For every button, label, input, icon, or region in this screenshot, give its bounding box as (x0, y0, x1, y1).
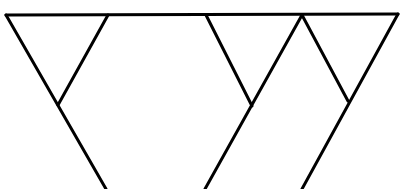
top-bar-line (6, 14, 398, 15)
right-branch-line (302, 15, 348, 101)
left-branch-line (58, 15, 108, 105)
branching-tree-diagram (0, 0, 412, 189)
middle-branch-line (206, 15, 252, 106)
diagram-canvas (0, 0, 412, 189)
left-trunk-line (6, 15, 106, 189)
